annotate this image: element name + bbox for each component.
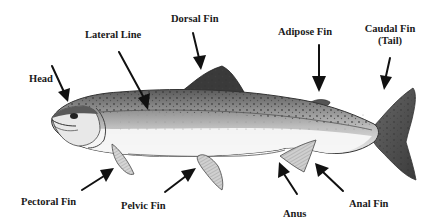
anus-arrow bbox=[278, 162, 297, 194]
anal-fin-arrow bbox=[315, 163, 343, 191]
label-head: Head bbox=[29, 73, 53, 85]
label-adipose-fin: Adipose Fin bbox=[278, 26, 332, 38]
caudal-fin-arrow bbox=[380, 58, 392, 90]
pelvic-fin-arrow bbox=[165, 168, 196, 192]
head-arrow bbox=[52, 66, 70, 102]
adipose-fin-arrow bbox=[312, 45, 326, 92]
label-pectoral-fin: Pectoral Fin bbox=[21, 196, 76, 208]
label-caudal-fin-line2: (Tail) bbox=[359, 35, 421, 47]
fish-anatomy-diagram: Head Lateral Line Dorsal Fin Adipose Fin… bbox=[0, 0, 443, 224]
eye bbox=[70, 113, 78, 119]
dorsal-fin-arrow bbox=[193, 33, 206, 70]
label-anus: Anus bbox=[283, 208, 306, 220]
label-caudal-fin-line1: Caudal Fin bbox=[359, 23, 421, 35]
label-anal-fin: Anal Fin bbox=[349, 198, 388, 210]
label-lateral-line: Lateral Line bbox=[85, 29, 141, 41]
label-dorsal-fin: Dorsal Fin bbox=[171, 13, 219, 25]
label-pelvic-fin: Pelvic Fin bbox=[121, 200, 166, 212]
pectoral-fin-arrow bbox=[82, 168, 114, 190]
label-caudal-fin: Caudal Fin (Tail) bbox=[359, 23, 421, 47]
